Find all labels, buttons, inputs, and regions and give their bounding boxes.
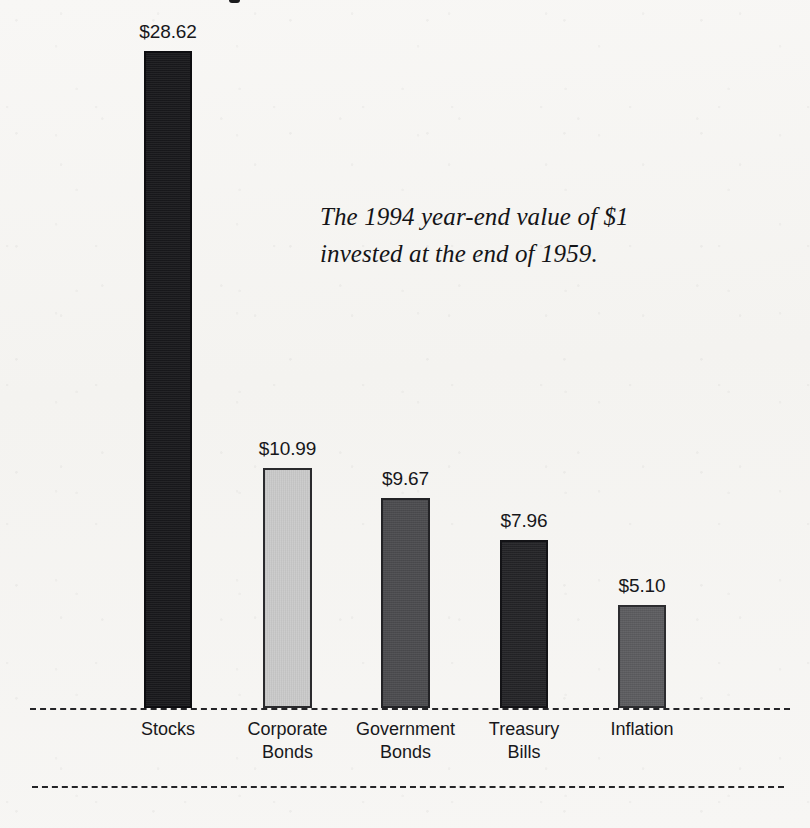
chart-page: $28.62Stocks$10.99Corporate Bonds$9.67Go… xyxy=(0,0,810,828)
bar-government-bonds xyxy=(381,498,430,708)
bar-inflation xyxy=(618,605,666,708)
bar-chart-plot-area: $28.62Stocks$10.99Corporate Bonds$9.67Go… xyxy=(0,0,810,828)
value-label-stocks: $28.62 xyxy=(139,21,197,43)
value-label-inflation: $5.10 xyxy=(618,575,665,597)
value-label-government-bonds: $9.67 xyxy=(382,468,429,490)
footer-dashed-rule xyxy=(32,786,784,788)
bar-treasury-bills xyxy=(500,540,548,708)
chart-caption: The 1994 year-end value of $1 invested a… xyxy=(320,198,700,272)
axis-baseline-dashed-rule xyxy=(30,708,790,710)
value-label-treasury-bills: $7.96 xyxy=(500,510,547,532)
value-label-corporate-bonds: $10.99 xyxy=(259,438,317,460)
bar-stocks xyxy=(144,51,192,708)
category-label-inflation: Inflation xyxy=(557,718,727,741)
bar-corporate-bonds xyxy=(263,468,312,708)
